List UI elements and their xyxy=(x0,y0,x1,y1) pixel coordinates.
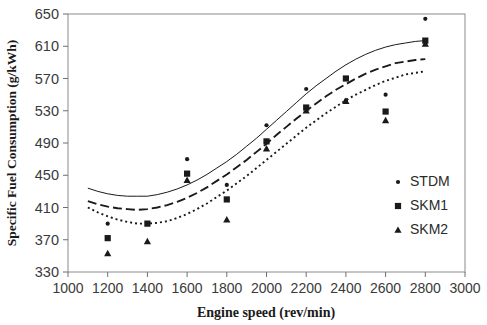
x-tick-label: 1600 xyxy=(172,280,203,296)
data-point-skm1 xyxy=(184,171,190,177)
x-tick-label: 2600 xyxy=(370,280,401,296)
y-tick-label: 490 xyxy=(35,135,59,151)
data-point-stdm xyxy=(106,222,110,226)
x-tick-label: 2200 xyxy=(291,280,322,296)
data-point-stdm xyxy=(225,183,229,187)
data-point-skm1 xyxy=(105,235,111,241)
y-tick-label: 610 xyxy=(35,38,59,54)
data-point-stdm xyxy=(185,157,189,161)
data-point-skm1 xyxy=(263,138,269,144)
x-tick-label: 1800 xyxy=(211,280,242,296)
y-tick-label: 370 xyxy=(35,232,59,248)
data-point-skm1 xyxy=(343,75,349,81)
data-point-stdm xyxy=(423,17,427,21)
data-point-stdm xyxy=(384,93,388,97)
y-axis-title: Specific Fuel Consumption (g/kWh) xyxy=(4,40,19,247)
x-tick-label: 2800 xyxy=(410,280,441,296)
legend-label-skm1: SKM1 xyxy=(410,197,448,213)
legend-marker-skm1 xyxy=(395,203,401,209)
legend-marker-stdm xyxy=(396,180,400,184)
data-point-stdm xyxy=(304,87,308,91)
y-tick-label: 450 xyxy=(35,167,59,183)
x-tick-label: 1400 xyxy=(132,280,163,296)
chart-background xyxy=(0,0,487,325)
y-tick-label: 570 xyxy=(35,71,59,87)
data-point-skm1 xyxy=(144,221,150,227)
x-tick-label: 1000 xyxy=(52,280,83,296)
y-tick-label: 410 xyxy=(35,200,59,216)
legend-label-skm2: SKM2 xyxy=(410,221,448,237)
x-tick-label: 1200 xyxy=(92,280,123,296)
fuel-consumption-chart: 330370410450490530570610650 100012001400… xyxy=(0,0,487,325)
legend-label-stdm: STDM xyxy=(410,173,450,189)
x-tick-label: 3000 xyxy=(449,280,480,296)
y-tick-label: 650 xyxy=(35,6,59,22)
y-tick-label: 530 xyxy=(35,103,59,119)
x-tick-label: 2400 xyxy=(330,280,361,296)
data-point-skm1 xyxy=(383,108,389,114)
x-tick-label: 2000 xyxy=(251,280,282,296)
x-axis-title: Engine speed (rev/min) xyxy=(197,305,336,321)
data-point-skm1 xyxy=(224,196,230,202)
y-tick-label: 330 xyxy=(35,264,59,280)
data-point-stdm xyxy=(264,123,268,127)
